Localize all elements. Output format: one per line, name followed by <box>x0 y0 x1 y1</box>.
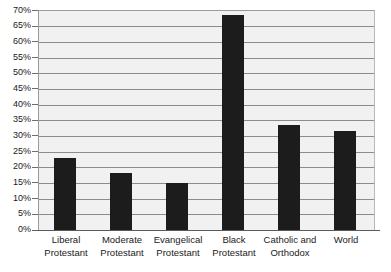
y-axis: 70% 65% 60% 55% 50% 45% 40% 35% 30% 25% … <box>0 0 31 272</box>
y-axis-label: 55% <box>1 53 31 62</box>
bar-evangelical-protestant[interactable] <box>166 183 188 230</box>
y-axis-label: 50% <box>1 68 31 77</box>
y-axis-label: 5% <box>1 209 31 218</box>
y-axis-label: 10% <box>1 194 31 203</box>
x-axis-label-world: World <box>309 234 383 247</box>
y-axis-label: 0% <box>1 225 31 234</box>
y-axis-label: 15% <box>1 178 31 187</box>
y-axis-label: 30% <box>1 131 31 140</box>
y-axis-label: 65% <box>1 21 31 30</box>
x-axis-labels: Liberal Protestant Moderate Protestant E… <box>38 234 375 272</box>
y-axis-label: 25% <box>1 147 31 156</box>
y-axis-label: 20% <box>1 162 31 171</box>
y-axis-label: 60% <box>1 37 31 46</box>
y-axis-label: 35% <box>1 115 31 124</box>
y-axis-label: 70% <box>1 6 31 15</box>
y-axis-label: 40% <box>1 100 31 109</box>
bar-world[interactable] <box>334 131 356 230</box>
x-axis-label-line: World <box>309 234 383 247</box>
bar-chart: 70% 65% 60% 55% 50% 45% 40% 35% 30% 25% … <box>0 0 391 272</box>
bar-liberal-protestant[interactable] <box>54 158 76 230</box>
bar-black-protestant[interactable] <box>222 15 244 230</box>
x-axis-label-line: Orthodox <box>253 247 327 260</box>
y-axis-label: 45% <box>1 84 31 93</box>
bars <box>38 10 375 231</box>
bar-moderate-protestant[interactable] <box>110 173 132 230</box>
x-axis-baseline <box>32 230 380 231</box>
bar-catholic-and-orthodox[interactable] <box>278 125 300 230</box>
